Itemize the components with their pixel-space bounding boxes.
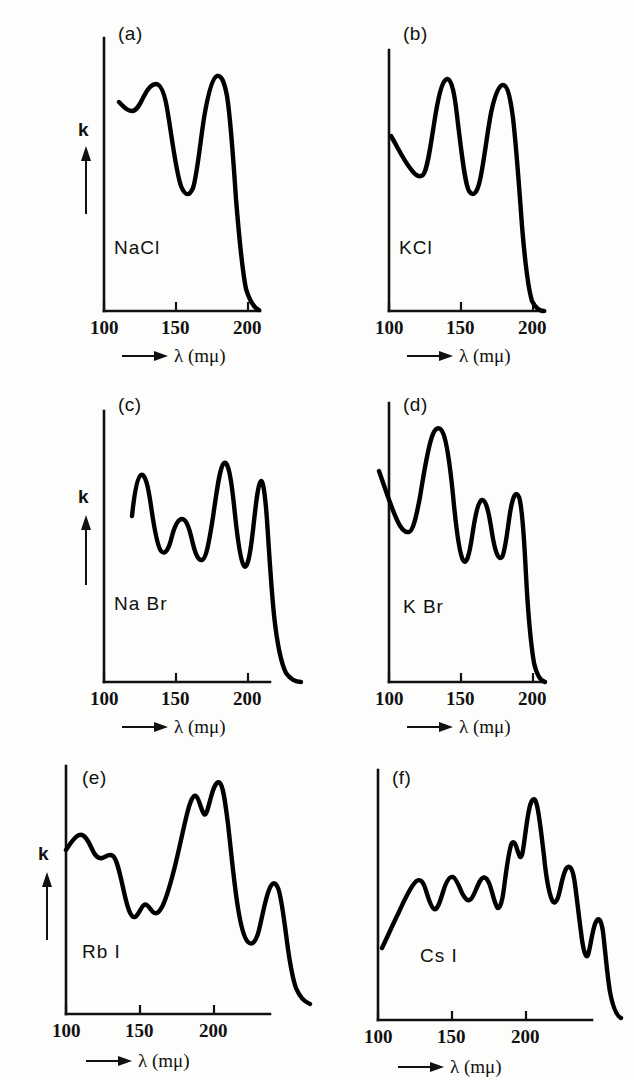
panel-b-curve [391, 79, 544, 311]
panel-d: (d) 100 150 200 λ (mμ) K Br [345, 385, 615, 735]
panel-c-ticklabel-2: 200 [233, 688, 262, 709]
panel-a-curve [119, 76, 259, 310]
panel-d-ticklabel-0: 100 [375, 688, 404, 709]
panel-b-x-axis-title: λ (mμ) [459, 345, 511, 367]
cropped-header-artifact [0, 0, 634, 9]
y-axis-arrow-head [42, 872, 52, 887]
panel-f-x-axis-title: λ (mμ) [450, 1056, 502, 1078]
panel-e-x-axis-title: λ (mμ) [138, 1050, 190, 1072]
panel-b: (b) 100 150 200 λ (mμ) KCl [345, 14, 615, 364]
panel-f-ticklabel-0: 100 [364, 1026, 393, 1047]
panel-c-curve [132, 463, 301, 682]
panel-c-x-axis-title: λ (mμ) [174, 716, 226, 738]
panel-a-letter: (a) [118, 23, 143, 44]
x-axis-arrow-head [430, 1062, 444, 1072]
panel-f-curve [382, 799, 621, 1018]
panel-b-ticklabel-2: 200 [518, 317, 547, 338]
panel-b-ticklabel-1: 150 [446, 317, 475, 338]
x-axis-arrow-head [154, 351, 168, 361]
figure-root: (a) k 100 150 200 λ (mμ) NaCl (b) [0, 0, 634, 1080]
panel-f-ticklabel-1: 150 [437, 1026, 466, 1047]
x-axis-arrow-head [439, 351, 453, 361]
panel-e-y-axis-title: k [38, 843, 49, 864]
panel-c-ticklabel-1: 150 [161, 688, 190, 709]
panel-e-compound-label: Rb I [82, 941, 121, 962]
panel-e: (e) k 100 150 200 λ (mμ) Rb I [30, 752, 330, 1080]
panel-a-x-axis-title: λ (mμ) [174, 345, 226, 367]
x-axis-arrow-head [154, 722, 168, 732]
panel-a-ticklabel-2: 200 [233, 317, 262, 338]
panel-d-letter: (d) [403, 394, 428, 415]
panel-a-compound-label: NaCl [114, 237, 160, 258]
panel-d-ticklabel-1: 150 [446, 688, 475, 709]
panel-f-letter: (f) [392, 767, 411, 788]
panel-d-curve [379, 428, 545, 682]
panel-d-compound-label: K Br [403, 596, 444, 617]
x-axis-arrow-head [439, 722, 453, 732]
panel-e-ticklabel-2: 200 [199, 1020, 228, 1041]
panel-b-ticklabel-0: 100 [375, 317, 404, 338]
panel-f-ticklabel-2: 200 [511, 1026, 540, 1047]
y-axis-arrow-head [81, 146, 91, 161]
panel-c: (c) k 100 150 200 λ (mμ) Na Br [60, 385, 330, 735]
y-axis-arrow-head [81, 515, 91, 530]
panel-a-ticklabel-1: 150 [161, 317, 190, 338]
panel-e-curve [66, 782, 310, 1004]
panel-d-x-axis-title: λ (mμ) [459, 716, 511, 738]
panel-f: (f) 100 150 200 λ (mμ) Cs I [330, 752, 630, 1080]
panel-e-ticklabel-1: 150 [125, 1020, 154, 1041]
panel-d-ticklabel-2: 200 [518, 688, 547, 709]
panel-e-ticklabel-0: 100 [52, 1020, 81, 1041]
panel-b-letter: (b) [403, 23, 428, 44]
panel-a-ticklabel-0: 100 [90, 317, 119, 338]
panel-f-compound-label: Cs I [420, 945, 458, 966]
panel-b-compound-label: KCl [399, 237, 433, 258]
panel-a: (a) k 100 150 200 λ (mμ) NaCl [60, 14, 330, 364]
panel-c-compound-label: Na Br [114, 593, 168, 614]
panel-e-letter: (e) [82, 767, 107, 788]
panel-c-ticklabel-0: 100 [90, 688, 119, 709]
panel-a-y-axis-title: k [78, 119, 89, 140]
panel-c-y-axis-title: k [78, 486, 89, 507]
panel-c-letter: (c) [118, 394, 142, 415]
x-axis-arrow-head [118, 1056, 132, 1066]
